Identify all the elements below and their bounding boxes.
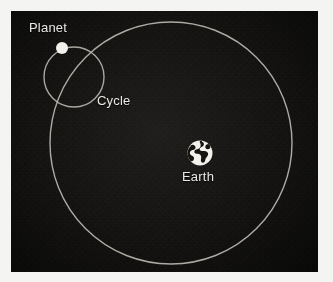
earth-label: Earth — [182, 170, 214, 184]
deferent-circle — [50, 22, 292, 264]
cycle-label: Cycle — [97, 94, 131, 108]
planet-dot-icon — [56, 42, 68, 54]
diagram-svg — [0, 0, 333, 282]
planet-label: Planet — [29, 21, 67, 35]
earth-globe-icon — [187, 141, 213, 166]
epicycle-circle — [44, 47, 104, 107]
figure-canvas: Planet Cycle Earth — [0, 0, 333, 282]
